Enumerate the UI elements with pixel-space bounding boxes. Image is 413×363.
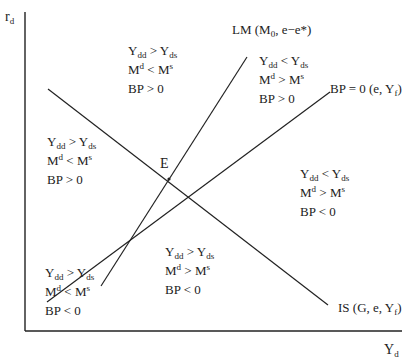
region-bottom: Ydd > Yds Md > Ms BP < 0 <box>165 243 214 300</box>
equilibrium-label: E <box>160 155 169 172</box>
lm-curve-label: LM (M0, e−e*) <box>232 21 311 38</box>
region-bottom-left: Ydd > Yds Md < Ms BP < 0 <box>45 264 94 321</box>
x-axis-label: Yd <box>384 341 399 358</box>
region-upper-right: Ydd < Yds Md > Ms BP > 0 <box>259 52 308 109</box>
is-curve-label: IS (G, e, Yf) <box>338 299 402 316</box>
region-left: Ydd > Yds Md < Ms BP > 0 <box>47 133 96 190</box>
y-axis-label: rd <box>5 8 14 25</box>
region-right: Ydd < Yds Md > Ms BP < 0 <box>300 165 349 222</box>
bp-curve-label: BP = 0 (e, Yf) <box>330 80 402 97</box>
region-top: Ydd > Yds Md < Ms BP > 0 <box>128 42 177 99</box>
equilibrium-point <box>167 177 170 180</box>
